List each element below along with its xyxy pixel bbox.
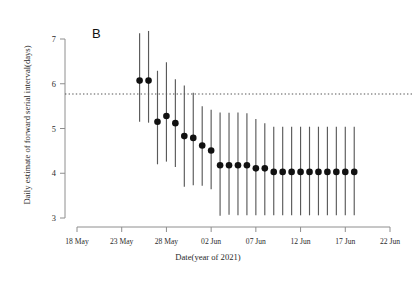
y-axis-label: Daily estimate of forward serial interva… [22, 25, 32, 225]
data-point [315, 169, 322, 176]
data-point [136, 77, 143, 84]
data-point [288, 169, 295, 176]
axes [60, 39, 390, 232]
x-tick-label: 07 Jun [246, 237, 266, 246]
y-tick-label: 6 [52, 80, 56, 89]
data-point [226, 162, 233, 169]
x-tick-label: 17 Jun [335, 237, 355, 246]
error-bars [140, 31, 355, 216]
data-point [181, 133, 188, 140]
y-tick-label: 4 [52, 169, 57, 178]
data-point [208, 147, 215, 154]
data-point [324, 169, 331, 176]
x-tick-label: 18 May [65, 237, 89, 246]
x-tick-label: 28 May [155, 237, 179, 246]
data-point [244, 162, 251, 169]
x-tick-label: 23 May [110, 237, 134, 246]
data-point [262, 165, 269, 172]
x-tick-label: 02 Jun [201, 237, 221, 246]
data-point [163, 113, 170, 120]
data-point [172, 120, 179, 127]
x-tick-label: 22 Jun [380, 237, 400, 246]
y-tick-labels: 34567 [52, 35, 57, 223]
data-point [297, 169, 304, 176]
data-point [199, 142, 206, 149]
data-point [279, 169, 286, 176]
data-point [351, 169, 358, 176]
y-tick-label: 3 [52, 214, 56, 223]
data-point [253, 165, 260, 172]
x-tick-label: 12 Jun [291, 237, 311, 246]
data-point [190, 135, 197, 142]
data-point [145, 77, 152, 84]
data-point [270, 169, 277, 176]
y-tick-label: 7 [52, 35, 56, 44]
data-point [154, 118, 161, 125]
data-point [235, 162, 242, 169]
data-point [306, 169, 313, 176]
y-tick-label: 5 [52, 125, 56, 134]
x-axis-label: Date(year of 2021) [0, 252, 416, 262]
figure-panel: · ·· · ·· ··· ··· · B 34567 18 May23 May… [0, 0, 416, 281]
x-tick-labels: 18 May23 May28 May02 Jun07 Jun12 Jun17 J… [65, 237, 400, 246]
plot-area: 34567 18 May23 May28 May02 Jun07 Jun12 J… [0, 0, 416, 281]
serial-interval-scatter-chart: 34567 18 May23 May28 May02 Jun07 Jun12 J… [0, 0, 416, 281]
data-point [333, 169, 340, 176]
data-point [342, 169, 349, 176]
data-point [217, 162, 224, 169]
